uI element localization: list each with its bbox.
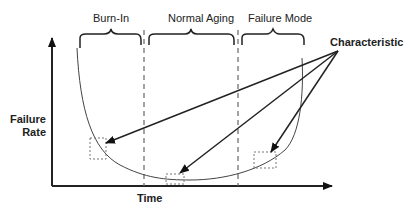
highlight-box-burn-in [90,138,106,159]
phase-label-normal-aging: Normal Aging [168,12,234,24]
brace-failure-mode [242,29,304,45]
phase-label-failure-mode: Failure Mode [248,12,312,24]
y-axis-label: Failure Rate [6,113,46,139]
failure-rate-curve [77,48,302,180]
highlight-box-failure [254,152,276,168]
callout-arrow-2 [180,51,338,173]
callout-arrow-3 [271,51,338,152]
x-axis-label: Time [137,192,162,204]
phase-label-burn-in: Burn-In [93,12,129,24]
brace-normal-aging [149,29,234,45]
bathtub-curve-diagram [0,0,408,214]
callout-arrow-1 [106,51,338,143]
brace-burn-in [80,29,141,48]
callout-label: Characteristic [330,36,403,48]
